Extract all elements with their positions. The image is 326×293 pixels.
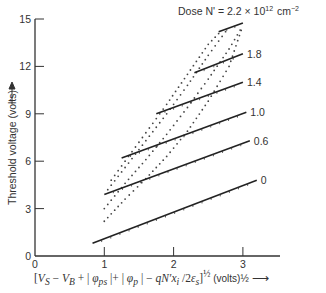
- curve-dot: [222, 75, 224, 77]
- curve-dot: [169, 99, 171, 101]
- x-axis-label: [VS − VB + | φps |+ | φp | − qN′xi /2εs]…: [34, 268, 269, 287]
- series-label: 1.0: [250, 106, 265, 118]
- curve-dot: [131, 175, 133, 177]
- curve-dot: [207, 43, 209, 45]
- curve-dot: [162, 108, 164, 110]
- curve-dot: [131, 151, 133, 153]
- y-tick-label: 6: [25, 155, 31, 167]
- curve-dot: [121, 171, 123, 173]
- curve-dot: [107, 203, 109, 205]
- curve-dot: [114, 209, 116, 211]
- y-axis-label: Threshold voltage (volts): [6, 90, 18, 205]
- curve-dot: [197, 92, 199, 94]
- y-tick-label: 9: [25, 108, 31, 120]
- curve-dot: [135, 146, 137, 148]
- curve-dot: [117, 170, 119, 172]
- curve-dot: [211, 40, 213, 42]
- curve-dot: [233, 50, 235, 52]
- curve-dot: [169, 151, 171, 153]
- series-label: 1.8: [247, 48, 262, 60]
- curve-dot: [110, 199, 112, 201]
- curve-dot: [198, 67, 200, 69]
- curve-dot: [138, 149, 140, 151]
- curve-dot: [193, 65, 195, 67]
- curve-dot: [204, 83, 206, 85]
- curve-dot: [166, 156, 168, 158]
- threshold-voltage-chart: 036912150123 00.61.01.41.8 Dose N' = 2.2…: [0, 0, 326, 293]
- curve-dot: [180, 116, 182, 118]
- curve-dot: [225, 52, 227, 54]
- axes: 036912150123: [19, 13, 280, 270]
- curve-dot: [137, 186, 139, 188]
- curve-dot: [239, 29, 241, 31]
- curve-dot: [187, 73, 189, 75]
- curve-dot: [145, 132, 147, 134]
- curve-dot: [166, 133, 168, 135]
- curve-dot: [187, 84, 189, 86]
- curve-dot: [234, 39, 236, 41]
- curve-dot: [124, 182, 126, 184]
- curve-dot: [216, 65, 218, 67]
- curve-dot: [152, 170, 154, 172]
- legend: Dose N' = 2.2 × 1012cm−2: [178, 5, 299, 17]
- curve-dot: [201, 52, 203, 54]
- y-tick-label: 15: [19, 13, 31, 25]
- curve-dot: [200, 88, 202, 90]
- curve-dot: [173, 147, 175, 149]
- curve-dot: [176, 143, 178, 145]
- curve-dot: [110, 179, 112, 181]
- dose-line-1.8: [194, 54, 243, 73]
- curve-dot: [190, 80, 192, 82]
- curve-dot: [239, 35, 241, 37]
- curve-dot: [183, 89, 185, 91]
- curve-dot: [214, 36, 216, 38]
- curve-dot: [181, 82, 183, 84]
- curve-dot: [195, 61, 197, 63]
- curve-dot: [176, 120, 178, 122]
- curve-dot: [138, 141, 140, 143]
- curve-dot: [231, 43, 233, 45]
- curve-dot: [204, 105, 206, 107]
- curve-dot: [152, 122, 154, 124]
- curve-dot: [107, 189, 109, 191]
- curve-dot: [166, 103, 168, 105]
- curve-dot: [121, 165, 123, 167]
- curve-dot: [117, 175, 119, 177]
- curve-dot: [141, 182, 143, 184]
- curve-dot: [138, 167, 140, 169]
- curve-dot: [155, 167, 157, 169]
- curve-dot: [148, 174, 150, 176]
- curve-dot: [155, 126, 157, 128]
- curve-dot: [162, 159, 164, 161]
- curve-dot: [173, 103, 175, 105]
- legend-title: Dose N' = 2.2 × 1012cm−2: [178, 5, 299, 17]
- y-tick-label: 3: [25, 203, 31, 215]
- curve-dot: [142, 163, 144, 165]
- curve-dot: [225, 70, 227, 72]
- curve-dot: [135, 171, 137, 173]
- curve-dot: [148, 155, 150, 157]
- curve-dot: [117, 206, 119, 208]
- curve-dot: [152, 131, 154, 133]
- curve-dot: [124, 198, 126, 200]
- curve-dot: [110, 184, 112, 186]
- curve-dot: [117, 191, 119, 193]
- curve-dot: [145, 140, 147, 142]
- dose-line-2.2: [219, 23, 243, 32]
- series-label: 0: [261, 174, 267, 186]
- curve-dot: [176, 99, 178, 101]
- curve-dot: [187, 130, 189, 132]
- curve-dot: [207, 100, 209, 102]
- curve-dot: [237, 40, 239, 42]
- curve-dot: [210, 95, 212, 97]
- dose-lines: 00.61.01.41.8: [93, 23, 269, 243]
- curve-dot: [162, 117, 164, 119]
- curve-dot: [190, 126, 192, 128]
- curve-dot: [207, 54, 209, 56]
- curve-dot: [103, 208, 105, 210]
- curve-dot: [148, 127, 150, 129]
- curve-dot: [124, 160, 126, 162]
- curve-dot: [121, 202, 123, 204]
- curve-dot: [204, 59, 206, 61]
- curve-dot: [207, 78, 209, 80]
